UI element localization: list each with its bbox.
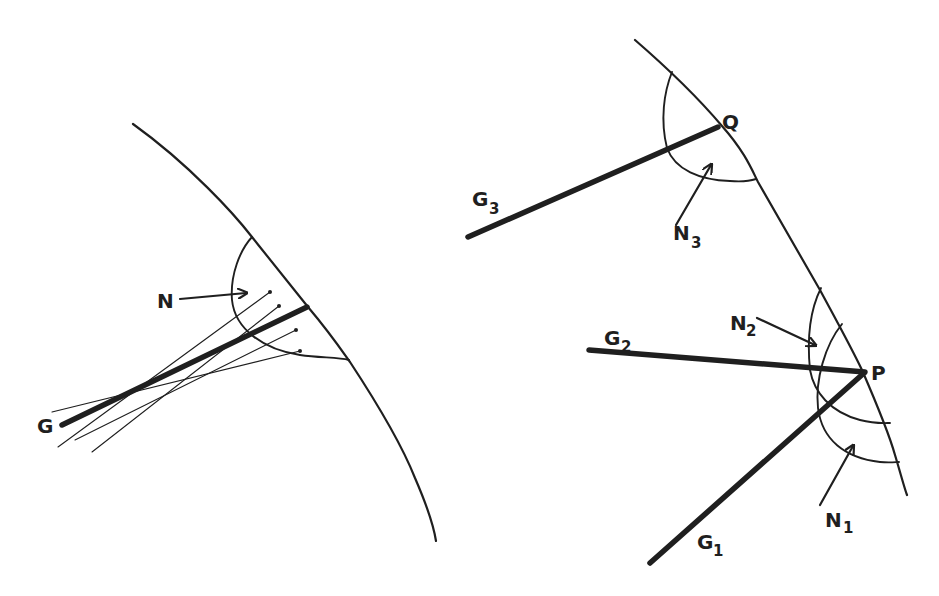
normal-arrow-n1 bbox=[820, 446, 853, 505]
p-angle-arc-inner bbox=[817, 324, 899, 462]
label-q: Q bbox=[722, 110, 739, 134]
svg-text:3: 3 bbox=[691, 234, 701, 252]
svg-text:G: G bbox=[472, 187, 488, 211]
thin-ray-3 bbox=[75, 330, 296, 440]
svg-text:G: G bbox=[604, 326, 620, 350]
left-panel: N G bbox=[37, 124, 436, 541]
right-boundary-curve bbox=[635, 40, 907, 495]
right-panel: Q P G 3 N 3 G 2 N 2 G 1 N 1 bbox=[468, 40, 907, 563]
normal-arrow-n bbox=[180, 293, 246, 299]
label-p: P bbox=[871, 361, 886, 385]
label-n1: N 1 bbox=[825, 508, 853, 537]
label-n2: N 2 bbox=[730, 311, 756, 340]
svg-text:2: 2 bbox=[746, 322, 756, 340]
svg-text:2: 2 bbox=[621, 338, 631, 356]
label-g3: G 3 bbox=[472, 187, 499, 218]
svg-text:1: 1 bbox=[843, 519, 853, 537]
ray-endpoint-dot bbox=[294, 328, 298, 332]
svg-text:N: N bbox=[730, 311, 747, 335]
ray-g bbox=[62, 307, 307, 425]
q-angle-arc bbox=[663, 72, 756, 181]
svg-text:3: 3 bbox=[489, 200, 499, 218]
svg-text:N: N bbox=[825, 508, 842, 532]
ray-endpoint-dot bbox=[268, 290, 272, 294]
ray-g1 bbox=[650, 373, 864, 563]
svg-text:1: 1 bbox=[713, 542, 723, 560]
label-g1: G 1 bbox=[697, 530, 723, 560]
normal-arrow-n2 bbox=[757, 318, 815, 345]
svg-text:N: N bbox=[673, 221, 690, 245]
p-angle-arc-n2 bbox=[809, 288, 890, 423]
label-n: N bbox=[157, 289, 174, 313]
label-g: G bbox=[37, 414, 53, 438]
ray-endpoint-dot bbox=[298, 349, 302, 353]
left-boundary-curve bbox=[133, 124, 436, 541]
ray-endpoint-dot bbox=[277, 304, 281, 308]
thin-ray-1 bbox=[58, 292, 270, 447]
label-n3: N 3 bbox=[673, 221, 701, 252]
diagram-canvas: N G Q P G 3 N 3 bbox=[0, 0, 939, 596]
svg-text:G: G bbox=[697, 530, 713, 554]
left-angle-arc bbox=[232, 237, 349, 360]
